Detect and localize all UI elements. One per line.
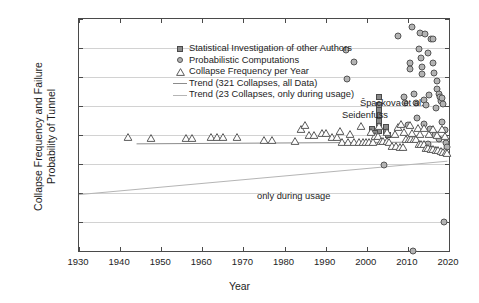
marker-circle — [432, 105, 439, 112]
annotation-only-during-usage: only during usage — [257, 191, 330, 201]
y-tick — [79, 251, 83, 252]
marker-triangle — [346, 130, 355, 138]
x-tick-label: 2010 — [396, 256, 417, 267]
marker-triangle — [290, 137, 299, 145]
trend-line — [79, 161, 447, 194]
annotation-spackova: Špackova et al. — [360, 98, 424, 108]
marker-triangle — [233, 133, 242, 141]
marker-circle — [411, 90, 418, 97]
marker-circle — [441, 219, 448, 226]
figure: Collapse Frequency and Failure Probabili… — [0, 0, 479, 303]
annotation-seidenfuss: Seidenfuss — [342, 110, 388, 120]
marker-triangle — [375, 122, 384, 130]
marker-circle — [431, 69, 438, 76]
marker-triangle — [428, 125, 437, 133]
legend-item: Statistical Investigation of other Autho… — [171, 43, 354, 55]
marker-circle — [416, 46, 423, 53]
legend-square-icon — [171, 46, 189, 52]
marker-triangle — [398, 143, 407, 151]
marker-circle — [430, 59, 437, 66]
legend-item: Trend (23 Collapses, only during usage) — [171, 89, 354, 101]
x-tick-label: 2000 — [355, 256, 376, 267]
legend-label: Trend (321 Collapses, all Data) — [189, 78, 317, 90]
x-tick-label: 2020 — [437, 256, 458, 267]
chart-legend: Statistical Investigation of other Autho… — [171, 43, 354, 101]
x-tick — [449, 247, 450, 251]
marker-triangle — [397, 120, 406, 128]
legend-line-icon — [171, 83, 189, 84]
marker-triangle — [321, 129, 330, 137]
marker-triangle — [438, 125, 447, 133]
y-axis-title-line1: Collapse Frequency and Failure — [32, 7, 45, 267]
marker-circle — [423, 101, 430, 108]
x-axis-title: Year — [0, 280, 479, 292]
legend-item: Trend (321 Collapses, all Data) — [171, 78, 354, 90]
x-tick-label: 1950 — [150, 256, 171, 267]
marker-circle — [409, 24, 416, 31]
marker-triangle — [301, 121, 310, 129]
x-tick-label: 1930 — [67, 256, 88, 267]
x-tick-label: 1970 — [232, 256, 253, 267]
plot-area: Statistical Investigation of other Autho… — [78, 18, 450, 252]
marker-triangle — [146, 134, 155, 142]
marker-triangle — [440, 132, 449, 140]
x-tick-label: 1990 — [314, 256, 335, 267]
legend-line-icon — [171, 95, 189, 96]
marker-circle — [381, 161, 388, 168]
marker-circle — [409, 248, 416, 255]
y-axis-title-line2: Probability of Tunnel — [44, 7, 57, 267]
marker-triangle — [188, 134, 197, 142]
legend-label: Statistical Investigation of other Autho… — [189, 43, 352, 55]
marker-circle — [407, 65, 414, 72]
x-tick — [449, 19, 450, 23]
marker-circle — [426, 91, 433, 98]
x-tick-label: 1960 — [191, 256, 212, 267]
marker-triangle — [124, 133, 133, 141]
marker-circle — [418, 54, 425, 61]
marker-triangle — [218, 133, 227, 141]
legend-circle-icon — [171, 57, 189, 63]
marker-circle — [429, 36, 436, 43]
x-tick-label: 1940 — [109, 256, 130, 267]
legend-item: Probabilistic Computations — [171, 55, 354, 67]
legend-label: Collapse Frequency per Year — [189, 66, 309, 78]
marker-triangle — [406, 121, 415, 129]
marker-circle — [433, 78, 440, 85]
legend-triangle-icon — [171, 68, 189, 76]
x-tick-label: 1980 — [273, 256, 294, 267]
marker-triangle — [336, 127, 345, 135]
legend-label: Trend (23 Collapses, only during usage) — [189, 89, 354, 101]
marker-circle — [425, 50, 432, 57]
marker-triangle — [443, 149, 452, 157]
marker-circle — [440, 100, 447, 107]
y-axis-title: Collapse Frequency and Failure Probabili… — [32, 7, 57, 267]
y-tick — [445, 251, 449, 252]
legend-item: Collapse Frequency per Year — [171, 66, 354, 78]
marker-circle — [394, 32, 401, 39]
marker-triangle — [356, 122, 365, 130]
marker-triangle — [390, 130, 399, 138]
legend-label: Probabilistic Computations — [189, 55, 299, 67]
marker-circle — [419, 70, 426, 77]
marker-triangle — [268, 136, 277, 144]
